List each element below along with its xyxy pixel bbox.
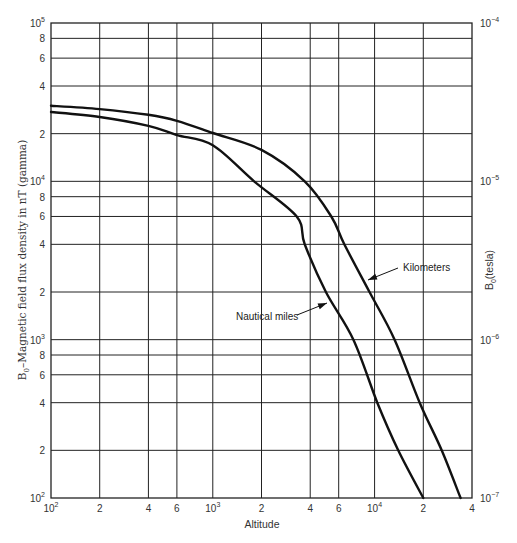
x-tick-label: 6 <box>336 503 342 514</box>
grid-lines <box>51 23 472 498</box>
x-tick-label: 2 <box>421 503 427 514</box>
label-kilometers: Kilometers <box>403 262 450 273</box>
y-tick-label: 8 <box>39 192 45 203</box>
y-tick-label: 104 <box>30 174 45 187</box>
x-tick-label: 2 <box>97 503 103 514</box>
y-axis-ticks-left: 102246810324681042468105 <box>30 16 45 504</box>
curve-nautical-miles <box>51 112 423 498</box>
x-axis-title: Altitude <box>244 518 279 530</box>
y-tick-label: 6 <box>39 370 45 381</box>
arrowhead-icon <box>318 303 327 309</box>
x-tick-label: 104 <box>367 501 382 514</box>
chart: 10224610324610424 1022468103246810424681… <box>0 0 517 543</box>
y2-axis-title: B0(tesla) <box>483 250 497 290</box>
y-tick-label: 6 <box>39 53 45 64</box>
x-tick-label: 103 <box>205 501 220 514</box>
curve-kilometers <box>51 106 461 498</box>
y2-tick-label: 10−6 <box>480 333 499 346</box>
y-axis-title: B0–Magnetic field flux density in nT (ga… <box>16 140 31 380</box>
arrowhead-icon <box>368 274 377 280</box>
y-tick-label: 4 <box>39 81 45 92</box>
y-tick-label: 8 <box>39 33 45 44</box>
x-tick-label: 6 <box>174 503 180 514</box>
x-tick-label: 4 <box>469 503 475 514</box>
y-tick-label: 8 <box>39 350 45 361</box>
y-tick-label: 103 <box>30 333 45 346</box>
label-nautical-miles: Nautical miles <box>236 311 298 322</box>
y-tick-label: 4 <box>39 239 45 250</box>
x-tick-label: 2 <box>259 503 265 514</box>
y-tick-label: 2 <box>39 129 45 140</box>
y-tick-label: 4 <box>39 398 45 409</box>
data-series <box>51 106 461 498</box>
x-tick-label: 4 <box>146 503 152 514</box>
y-tick-label: 6 <box>39 211 45 222</box>
y-tick-label: 2 <box>39 445 45 456</box>
y2-tick-label: 10−5 <box>480 174 499 187</box>
x-axis-ticks: 10224610324610424 <box>43 501 475 514</box>
y2-tick-label: 10−7 <box>480 491 499 504</box>
y-tick-label: 2 <box>39 287 45 298</box>
x-tick-label: 102 <box>43 501 58 514</box>
y-tick-label: 105 <box>30 16 45 29</box>
x-tick-label: 4 <box>307 503 313 514</box>
y2-tick-label: 10−4 <box>480 16 499 29</box>
